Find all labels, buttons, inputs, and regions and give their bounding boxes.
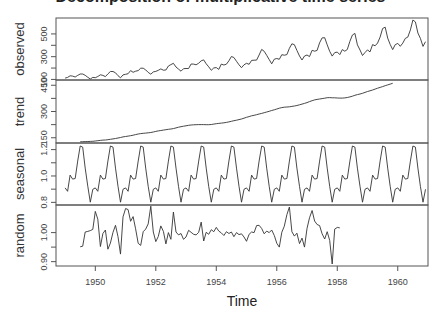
panel-frame bbox=[56, 18, 428, 80]
y-tick-label: 450 bbox=[39, 78, 49, 93]
random-series-line bbox=[80, 206, 340, 264]
panel-ylabel-random: random bbox=[12, 213, 27, 257]
x-tick-label: 1958 bbox=[327, 277, 347, 287]
x-axis-label: Time bbox=[227, 293, 258, 309]
y-tick-label: 1.0 bbox=[39, 170, 49, 183]
y-tick-label: 150 bbox=[39, 130, 49, 145]
panel-trend: 150300450trend bbox=[12, 78, 428, 146]
x-tick-label: 1950 bbox=[85, 277, 105, 287]
x-tick-label: 1956 bbox=[267, 277, 287, 287]
panel-ylabel-trend: trend bbox=[12, 97, 27, 127]
y-tick-label: 1.00 bbox=[39, 224, 49, 242]
y-tick-label: 0.90 bbox=[39, 253, 49, 271]
x-tick-label: 1954 bbox=[206, 277, 226, 287]
decomposition-chart: 100300500observed150300450trend0.81.01.2… bbox=[0, 0, 441, 316]
x-tick-label: 1952 bbox=[146, 277, 166, 287]
y-tick-label: 1.2 bbox=[39, 143, 49, 156]
panel-ylabel-observed: observed bbox=[12, 22, 27, 75]
y-tick-label: 0.8 bbox=[39, 196, 49, 209]
panel-random: 0.901.00random bbox=[12, 205, 428, 270]
panel-observed: 100300500observed bbox=[12, 18, 428, 87]
panel-frame bbox=[56, 143, 428, 205]
panel-seasonal: 0.81.01.2seasonal bbox=[12, 143, 428, 209]
panel-ylabel-seasonal: seasonal bbox=[12, 148, 27, 200]
x-axis: 195019521954195619581960 bbox=[85, 266, 407, 287]
x-tick-label: 1960 bbox=[388, 277, 408, 287]
y-tick-label: 300 bbox=[39, 49, 49, 64]
y-tick-label: 500 bbox=[39, 26, 49, 41]
y-tick-label: 300 bbox=[39, 104, 49, 119]
observed-series-line bbox=[65, 20, 425, 79]
chart-panels: 100300500observed150300450trend0.81.01.2… bbox=[12, 18, 428, 270]
panel-frame bbox=[56, 80, 428, 143]
trend-series-line bbox=[80, 83, 393, 142]
seasonal-series-line bbox=[65, 146, 425, 202]
